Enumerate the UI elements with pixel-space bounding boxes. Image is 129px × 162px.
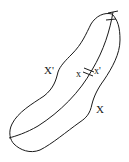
outer-region-boundary [10,13,120,151]
diagram-canvas: X' x x' X [0,0,129,162]
label-X-prime: X' [44,64,54,76]
top-tick-2 [106,19,116,20]
label-x-prime: x' [94,65,101,76]
label-x: x [76,68,81,79]
hash-mark-2 [83,72,93,76]
label-X: X [96,103,104,115]
